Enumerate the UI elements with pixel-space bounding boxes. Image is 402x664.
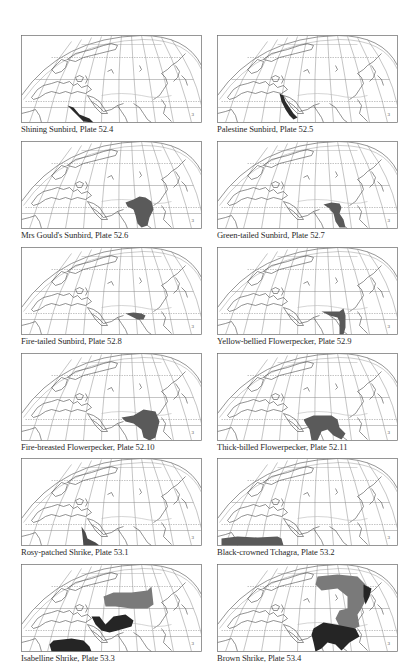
map-caption: Green-tailed Sunbird, Plate 52.7 bbox=[217, 230, 398, 241]
map-caption: Thick-billed Flowerpecker, Plate 52.11 bbox=[217, 442, 398, 453]
range-map bbox=[217, 35, 398, 123]
map-caption: Black-crowned Tchagra, Plate 53.2 bbox=[217, 547, 398, 558]
range-dark-area bbox=[222, 537, 284, 546]
range-map bbox=[21, 564, 202, 652]
map-caption: Mrs Gould's Sunbird, Plate 52.6 bbox=[21, 230, 202, 241]
range-map bbox=[217, 564, 398, 652]
range-map bbox=[21, 35, 202, 123]
range-map bbox=[217, 353, 398, 441]
range-map bbox=[21, 141, 202, 229]
range-map-panel: Brown Shrike, Plate 53.4 bbox=[217, 564, 398, 664]
range-map-panel: Fire-breasted Flowerpecker, Plate 52.10 bbox=[21, 353, 202, 453]
range-map bbox=[21, 458, 202, 546]
map-caption: Brown Shrike, Plate 53.4 bbox=[217, 653, 398, 664]
range-map-panel: Green-tailed Sunbird, Plate 52.7 bbox=[217, 141, 398, 241]
range-map bbox=[21, 247, 202, 335]
range-map-panel: Yellow-bellied Flowerpecker, Plate 52.9 bbox=[217, 247, 398, 347]
map-caption: Palestine Sunbird, Plate 52.5 bbox=[217, 124, 398, 135]
range-map-panel: Black-crowned Tchagra, Plate 53.2 bbox=[217, 458, 398, 558]
map-caption: Rosy-patched Shrike, Plate 53.1 bbox=[21, 547, 202, 558]
map-caption: Fire-tailed Sunbird, Plate 52.8 bbox=[21, 336, 202, 347]
range-map-panel: Isabelline Shrike, Plate 53.3 bbox=[21, 564, 202, 664]
range-map bbox=[217, 247, 398, 335]
range-map-panel: Mrs Gould's Sunbird, Plate 52.6 bbox=[21, 141, 202, 241]
range-map-panel: Rosy-patched Shrike, Plate 53.1 bbox=[21, 458, 202, 558]
map-caption: Shining Sunbird, Plate 52.4 bbox=[21, 124, 202, 135]
range-map-panel: Fire-tailed Sunbird, Plate 52.8 bbox=[21, 247, 202, 347]
map-caption: Fire-breasted Flowerpecker, Plate 52.10 bbox=[21, 442, 202, 453]
map-caption: Yellow-bellied Flowerpecker, Plate 52.9 bbox=[217, 336, 398, 347]
range-map bbox=[217, 141, 398, 229]
range-map bbox=[217, 458, 398, 546]
range-map-panel: Palestine Sunbird, Plate 52.5 bbox=[217, 35, 398, 135]
map-caption: Isabelline Shrike, Plate 53.3 bbox=[21, 653, 202, 664]
range-map-panel: Shining Sunbird, Plate 52.4 bbox=[21, 35, 202, 135]
range-map-panel: Thick-billed Flowerpecker, Plate 52.11 bbox=[217, 353, 398, 453]
range-map bbox=[21, 353, 202, 441]
